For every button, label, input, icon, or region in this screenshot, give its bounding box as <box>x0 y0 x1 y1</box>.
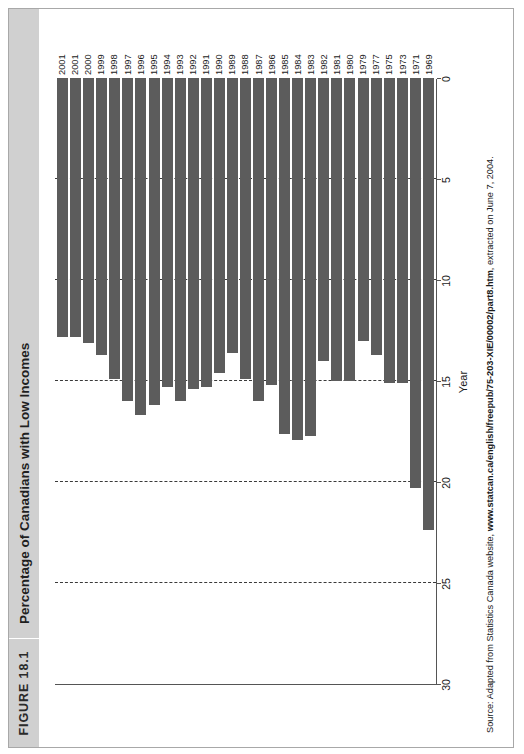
bar-row <box>305 79 316 684</box>
year-label: 1984 <box>293 15 304 75</box>
bar-row <box>109 79 120 684</box>
bar <box>188 78 199 389</box>
bar-row <box>410 79 421 684</box>
bar-row <box>423 79 434 684</box>
bar <box>122 78 133 401</box>
bar-row <box>279 79 290 684</box>
bar <box>279 78 290 434</box>
rotated-figure-canvas: FIGURE 18.1 Percentage of Canadians with… <box>8 6 516 748</box>
year-label: 1969 <box>424 15 435 75</box>
bar <box>318 78 329 361</box>
bar <box>266 78 277 385</box>
bar <box>149 78 160 405</box>
source-prefix: Source: Adapted from Statistics Canada w… <box>485 531 495 733</box>
bar <box>135 78 146 415</box>
year-label: 1995 <box>149 15 160 75</box>
bar-row <box>253 79 264 684</box>
bar <box>175 78 186 401</box>
bar <box>292 78 303 440</box>
bar <box>358 78 369 341</box>
plot-area <box>55 79 437 685</box>
bar-row <box>397 79 408 684</box>
bar <box>96 78 107 355</box>
bar-row <box>266 79 277 684</box>
bar <box>227 78 238 353</box>
bar <box>162 78 173 387</box>
source-note: Source: Adapted from Statistics Canada w… <box>485 21 497 733</box>
bar <box>201 78 212 387</box>
bar <box>371 78 382 355</box>
bar <box>109 78 120 379</box>
bar <box>384 78 395 383</box>
source-suffix: , extracted on June 7, 2004. <box>485 156 495 270</box>
year-label: 1997 <box>123 15 134 75</box>
axis-tick-label: 25 <box>440 578 452 590</box>
bar <box>214 78 225 373</box>
bar-row <box>96 79 107 684</box>
plot-wrapper: 051015202530 200120012000199919981997199… <box>39 9 515 747</box>
bar-row <box>70 79 81 684</box>
year-label: 1986 <box>267 15 278 75</box>
bar-row <box>135 79 146 684</box>
bar-row <box>83 79 94 684</box>
bar-row <box>371 79 382 684</box>
year-label: 1981 <box>332 15 343 75</box>
year-label: 2000 <box>83 15 94 75</box>
bar <box>253 78 264 401</box>
year-label: 1988 <box>240 15 251 75</box>
bar-row <box>318 79 329 684</box>
bar-row <box>358 79 369 684</box>
year-label: 1982 <box>319 15 330 75</box>
value-axis-ticks: 051015202530 <box>437 79 455 685</box>
bar <box>57 78 68 337</box>
year-label: 1975 <box>384 15 395 75</box>
year-axis-labels: 2001200120001999199819971996199519941993… <box>55 15 437 75</box>
year-label: 1998 <box>109 15 120 75</box>
figure-title: Percentage of Canadians with Low Incomes <box>9 9 39 638</box>
axis-tick-label: 30 <box>440 679 452 691</box>
bar-row <box>149 79 160 684</box>
bar <box>423 78 434 530</box>
year-label: 1994 <box>162 15 173 75</box>
axis-tick-label: 15 <box>440 376 452 388</box>
figure-container: FIGURE 18.1 Percentage of Canadians with… <box>8 8 514 748</box>
bar <box>331 78 342 381</box>
year-label: 1991 <box>201 15 212 75</box>
bar <box>410 78 421 488</box>
year-label: 1985 <box>280 15 291 75</box>
year-label: 1973 <box>398 15 409 75</box>
bar-row <box>384 79 395 684</box>
bar-row <box>214 79 225 684</box>
figure-page: FIGURE 18.1 Percentage of Canadians with… <box>0 0 524 754</box>
year-label: 1987 <box>254 15 265 75</box>
bar-row <box>292 79 303 684</box>
axis-tick-label: 10 <box>440 275 452 287</box>
bar <box>305 78 316 436</box>
year-label: 1989 <box>227 15 238 75</box>
year-label: 1983 <box>306 15 317 75</box>
year-label: 1992 <box>188 15 199 75</box>
year-label: 2001 <box>70 15 81 75</box>
bar-row <box>344 79 355 684</box>
bar-row <box>162 79 173 684</box>
bar-row <box>201 79 212 684</box>
x-axis-title: Year <box>457 79 469 685</box>
year-label: 1980 <box>345 15 356 75</box>
bar-row <box>188 79 199 684</box>
bar <box>397 78 408 383</box>
year-label: 1996 <box>136 15 147 75</box>
bar <box>83 78 94 343</box>
bar <box>344 78 355 381</box>
bar-row <box>122 79 133 684</box>
axis-tick-label: 0 <box>440 76 452 82</box>
year-label: 1979 <box>358 15 369 75</box>
bar-row <box>175 79 186 684</box>
source-url: www.statcan.ca/english/freepub/75-203-XI… <box>485 270 495 531</box>
year-label: 1971 <box>411 15 422 75</box>
bar <box>70 78 81 337</box>
year-label: 2001 <box>57 15 68 75</box>
figure-header: FIGURE 18.1 Percentage of Canadians with… <box>9 9 39 747</box>
year-label: 1977 <box>371 15 382 75</box>
bar-row <box>227 79 238 684</box>
axis-tick-label: 20 <box>440 477 452 489</box>
